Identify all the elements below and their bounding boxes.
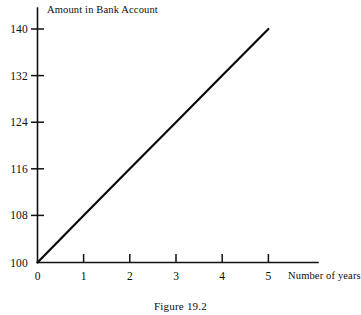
y-tick-label-108: 108: [0, 210, 28, 222]
data-line-bank-amount: [38, 29, 269, 263]
chart-plot-area: [0, 0, 361, 315]
y-tick-label-124: 124: [0, 117, 28, 129]
x-tick-label-3: 3: [168, 271, 184, 283]
x-tick-label-5: 5: [260, 271, 276, 283]
x-axis-title: Number of years: [288, 271, 361, 282]
figure-container: Amount in Bank Account 140 132 124 116 1…: [0, 0, 361, 315]
x-tick-label-0: 0: [30, 271, 46, 283]
x-tick-label-1: 1: [76, 271, 92, 283]
y-tick-label-132: 132: [0, 71, 28, 83]
x-tick-label-2: 2: [122, 271, 138, 283]
chart-title: Amount in Bank Account: [47, 5, 158, 16]
figure-caption: Figure 19.2: [0, 300, 361, 312]
x-tick-label-4: 4: [214, 271, 230, 283]
y-tick-label-100: 100: [0, 258, 28, 270]
y-tick-label-140: 140: [0, 24, 28, 36]
y-tick-label-116: 116: [0, 164, 28, 176]
